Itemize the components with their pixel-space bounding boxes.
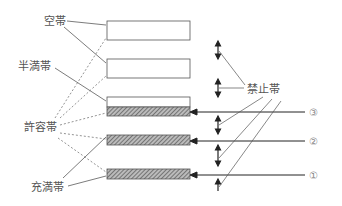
- band-box-empty: [107, 21, 190, 40]
- leader-empty-band: [64, 21, 106, 63]
- input-arrows: [190, 109, 305, 178]
- leader-half-full-band: [55, 68, 106, 101]
- band-diagram: 空帯 半満帯 許容帯 充満帯 禁止帯 ③ ② ①: [0, 0, 342, 206]
- leader-full-band: [63, 137, 106, 186]
- band-box-1-hatched: [107, 169, 190, 179]
- label-half-full-band: 半満帯: [18, 59, 51, 73]
- marker-2: ②: [309, 136, 318, 147]
- label-full-band: 充満帯: [31, 180, 64, 194]
- label-forbidden-band: 禁止帯: [247, 83, 280, 96]
- band-box-3-hatched: [107, 107, 190, 116]
- label-empty-band: 空帯: [44, 14, 66, 28]
- marker-1: ①: [309, 170, 318, 181]
- forbidden-band-arrows: [216, 41, 221, 191]
- band-box-2-hatched: [107, 135, 190, 145]
- band-box-half-full: [107, 59, 190, 78]
- marker-3: ③: [309, 107, 318, 118]
- band-box-3-top: [107, 97, 190, 107]
- label-allowed-band: 許容帯: [24, 120, 57, 134]
- leader-allowed-band: [55, 38, 106, 172]
- leader-forbidden-band: [219, 51, 281, 187]
